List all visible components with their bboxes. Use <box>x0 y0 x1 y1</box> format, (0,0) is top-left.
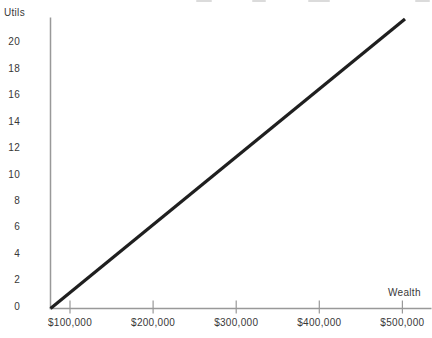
x-tick-label: $300,000 <box>214 317 258 328</box>
y-tick-label: 4 <box>0 248 20 259</box>
y-tick-label: 12 <box>0 142 20 153</box>
x-tick-label: $100,000 <box>48 317 92 328</box>
y-tick-label: 14 <box>0 116 20 127</box>
utility-of-wealth-figure: Utils Wealth $100,000$200,000$300,000$40… <box>0 0 432 338</box>
y-tick-label: 6 <box>0 221 20 232</box>
x-tick-label: $500,000 <box>380 317 424 328</box>
utility-line <box>51 19 406 309</box>
x-tick-label: $200,000 <box>131 317 175 328</box>
y-tick-label: 10 <box>0 169 20 180</box>
x-tick-label: $400,000 <box>297 317 341 328</box>
y-tick-label: 0 <box>0 301 20 312</box>
y-axis-title: Utils <box>4 7 25 18</box>
y-tick-label: 2 <box>0 274 20 285</box>
y-tick-label: 8 <box>0 195 20 206</box>
y-tick-label: 18 <box>0 63 20 74</box>
x-axis-title: Wealth <box>388 287 421 298</box>
plot-canvas <box>0 0 432 338</box>
y-tick-label: 20 <box>0 36 20 47</box>
y-tick-label: 16 <box>0 89 20 100</box>
